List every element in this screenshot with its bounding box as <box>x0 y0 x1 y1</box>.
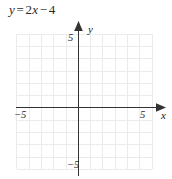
y-axis-arrowhead <box>74 21 83 31</box>
y-axis-tick-5: 5 <box>68 33 73 44</box>
x-axis-tick-negative-5: −5 <box>14 110 26 121</box>
y-axis-tick-negative-5: −5 <box>67 160 79 171</box>
grid-lines <box>17 34 152 169</box>
coordinate-grid-figure: y=2x−4 <box>0 0 172 179</box>
y-axis <box>74 21 83 176</box>
x-axis-tick-5: 5 <box>140 110 145 121</box>
plot-svg <box>0 0 172 179</box>
x-axis-label: x <box>161 110 166 121</box>
y-axis-label: y <box>88 24 93 35</box>
cartesian-plot <box>0 0 172 179</box>
